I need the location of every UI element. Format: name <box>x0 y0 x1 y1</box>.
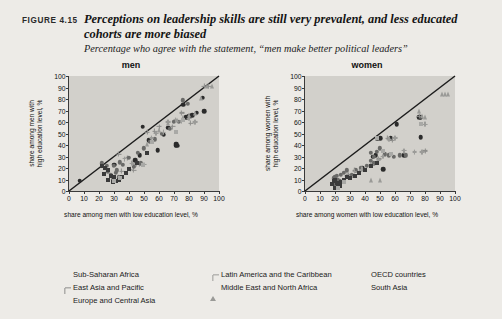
data-point <box>193 110 197 115</box>
x-tick-mark <box>99 191 100 194</box>
y-tick-label: 60 <box>58 119 66 126</box>
legend-item[interactable]: Sub-Saharan Africa <box>60 268 155 281</box>
data-point <box>417 108 421 113</box>
x-tick-label: 80 <box>185 195 193 202</box>
legend-item[interactable]: Middle East and North Africa <box>208 281 332 294</box>
x-tick-label: 20 <box>331 195 339 202</box>
data-point <box>369 177 373 182</box>
y-tick-mark <box>302 122 305 123</box>
legend-plus-icon <box>60 283 69 292</box>
y-tick-mark <box>66 180 69 181</box>
y-tick-label: 50 <box>58 130 66 137</box>
data-point <box>369 164 373 168</box>
y-tick-label: 90 <box>294 84 302 91</box>
data-point <box>420 149 425 154</box>
x-tick-label: 40 <box>361 195 369 202</box>
data-point <box>378 177 382 182</box>
legend-triangle-icon <box>208 283 217 292</box>
data-point <box>145 151 149 155</box>
x-tick-label: 70 <box>170 195 178 202</box>
data-point <box>175 143 180 148</box>
legend-item[interactable]: Latin America and the Caribbean <box>208 268 332 281</box>
figure-title: Perceptions on leadership skills are sti… <box>84 12 484 41</box>
y-tick-label: 10 <box>294 176 302 183</box>
data-point <box>118 176 122 180</box>
data-point <box>155 148 160 153</box>
x-tick-mark <box>69 191 70 194</box>
x-tick-label: 10 <box>316 195 324 202</box>
y-tick-label: 20 <box>294 165 302 172</box>
legend-column-3: OECD countriesSouth Asia <box>358 268 426 294</box>
data-point <box>357 171 361 175</box>
x-tick-mark <box>114 191 115 194</box>
y-tick-label: 20 <box>58 165 66 172</box>
x-tick-mark <box>189 191 190 194</box>
data-point <box>330 182 334 186</box>
x-tick-label: 90 <box>436 195 444 202</box>
data-point <box>127 167 131 171</box>
x-tick-mark <box>204 191 205 194</box>
x-tick-mark <box>335 191 336 194</box>
data-point <box>122 156 127 161</box>
y-tick-mark <box>66 157 69 158</box>
legend-item[interactable]: OECD countries <box>358 268 426 281</box>
y-tick-label: 80 <box>58 96 66 103</box>
y-tick-mark <box>66 122 69 123</box>
x-tick-label: 80 <box>421 195 429 202</box>
y-tick-label: 30 <box>294 153 302 160</box>
data-point <box>342 180 346 184</box>
legend-circle-icon <box>60 296 69 305</box>
data-point <box>135 161 139 165</box>
x-tick-mark <box>84 191 85 194</box>
y-tick-label: 100 <box>290 73 301 80</box>
data-point <box>199 95 203 100</box>
legend-item-label: Latin America and the Caribbean <box>221 270 332 279</box>
y-tick-mark <box>66 76 69 77</box>
legend-item[interactable]: South Asia <box>358 281 426 294</box>
y-tick-label: 0 <box>62 188 66 195</box>
x-tick-label: 30 <box>346 195 354 202</box>
x-tick-mark <box>159 191 160 194</box>
x-tick-label: 10 <box>80 195 88 202</box>
figure-subtitle: Percentage who agree with the statement,… <box>84 43 494 55</box>
y-axis-label-men: share among men withhigh education level… <box>28 76 43 191</box>
legend-item-label: East Asia and Pacific <box>73 283 144 292</box>
figure-number: FIGURE 4.15 <box>22 16 78 25</box>
y-tick-mark <box>302 168 305 169</box>
data-point <box>423 122 428 127</box>
x-tick-label: 20 <box>95 195 103 202</box>
x-tick-mark <box>219 191 220 194</box>
legend-item-label: Middle East and North Africa <box>221 283 317 292</box>
data-point <box>389 152 393 156</box>
x-tick-mark <box>305 191 306 194</box>
x-tick-mark <box>440 191 441 194</box>
data-point <box>140 124 145 129</box>
data-point <box>393 136 398 141</box>
data-point <box>348 176 352 180</box>
x-tick-label: 100 <box>213 195 224 202</box>
y-tick-label: 40 <box>58 142 66 149</box>
data-point <box>193 120 198 125</box>
x-tick-mark <box>380 191 381 194</box>
data-point <box>145 130 150 135</box>
y-tick-mark <box>66 168 69 169</box>
x-tick-label: 60 <box>391 195 399 202</box>
data-point <box>210 84 214 89</box>
legend-item-label: Europe and Central Asia <box>73 296 155 305</box>
x-axis-label-women: share among women with low education lev… <box>258 211 476 218</box>
data-point <box>77 178 82 183</box>
chart-title-women: women <box>258 60 476 70</box>
y-tick-label: 30 <box>58 153 66 160</box>
x-tick-label: 90 <box>200 195 208 202</box>
legend-square-icon <box>358 283 367 292</box>
legend-item[interactable]: East Asia and Pacific <box>60 281 155 294</box>
legend-column-2: Latin America and the CaribbeanMiddle Ea… <box>208 268 332 294</box>
data-point <box>112 179 116 183</box>
y-tick-label: 90 <box>58 84 66 91</box>
data-point <box>166 121 170 126</box>
legend-item[interactable]: Europe and Central Asia <box>60 294 155 307</box>
legend-plus-icon <box>208 270 217 279</box>
data-point <box>175 117 179 122</box>
data-point <box>106 178 110 182</box>
x-tick-mark <box>455 191 456 194</box>
